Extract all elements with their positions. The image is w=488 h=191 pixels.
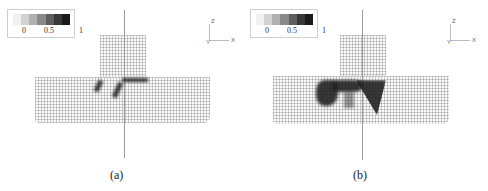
mesh-stem [100, 35, 146, 80]
axis-triad: Z X Y [206, 18, 236, 44]
colorbar-ticks: 0 0.5 1 [251, 26, 317, 36]
tick-label: 0 [265, 26, 269, 35]
z-axis-label: Z [452, 18, 456, 24]
x-axis-label: X [231, 37, 235, 43]
colorbar-ticks: 0 0.5 1 [8, 26, 74, 36]
colorbar-legend: 0 0.5 1 [250, 9, 318, 38]
colorbar-swatch [21, 14, 29, 25]
colorbar-swatch [297, 14, 305, 25]
x-axis-label: X [472, 37, 476, 43]
colorbar [256, 14, 313, 25]
colorbar-swatch [272, 14, 280, 25]
tick-label: 0.5 [44, 26, 54, 35]
colorbar-swatch [264, 14, 272, 25]
colorbar-swatch [256, 14, 264, 25]
axis-triad: Z X Y [447, 18, 477, 44]
tick-label: 0 [22, 26, 26, 35]
caption-a: (a) [110, 168, 123, 183]
colorbar-swatch [289, 14, 297, 25]
colorbar-swatch [280, 14, 288, 25]
colorbar-legend: 0 0.5 1 [7, 9, 75, 38]
colorbar-swatch [62, 14, 70, 25]
tick-label: 1 [79, 26, 83, 35]
z-axis-label: Z [211, 18, 215, 24]
colorbar-swatch [37, 14, 45, 25]
tick-label: 1 [322, 26, 326, 35]
damage-region [344, 92, 354, 108]
colorbar-swatch [305, 14, 313, 25]
symmetry-line [124, 10, 125, 158]
z-axis-line [209, 24, 210, 40]
y-axis-label: Y [206, 39, 210, 45]
damage-band [122, 78, 148, 82]
colorbar-swatch [46, 14, 54, 25]
colorbar-swatch [13, 14, 21, 25]
colorbar-swatch [29, 14, 37, 25]
panel-a: 0 0.5 1 Z X Y (a) [0, 0, 244, 191]
tick-label: 0.5 [287, 26, 297, 35]
x-axis-line [450, 40, 470, 41]
caption-b: (b) [353, 168, 367, 183]
x-axis-line [209, 40, 229, 41]
z-axis-line [450, 24, 451, 40]
y-axis-label: Y [447, 39, 451, 45]
colorbar-swatch [54, 14, 62, 25]
panel-b: 0 0.5 1 Z X Y (b) [244, 0, 488, 191]
colorbar [13, 14, 70, 25]
